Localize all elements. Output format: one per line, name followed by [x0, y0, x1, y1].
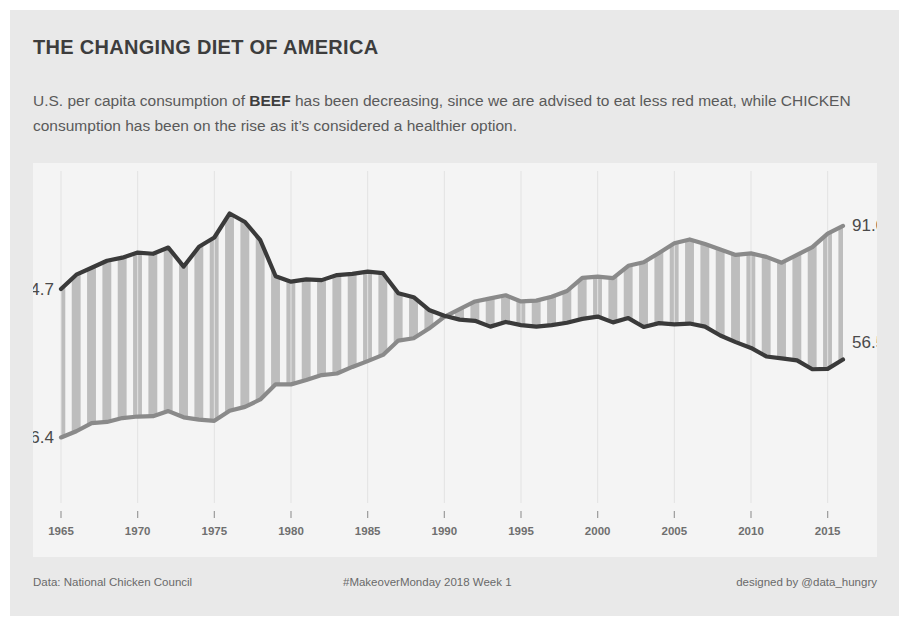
subtitle-part-1: U.S. per capita consumption of [33, 92, 249, 109]
consumption-line-chart: 1965197019751980198519901995200020052010… [33, 163, 877, 557]
x-axis-tick-label: 1985 [355, 525, 381, 537]
x-axis-tick-label: 1970 [125, 525, 151, 537]
x-axis-tick-label: 1995 [508, 525, 534, 537]
x-axis-tick-label: 1965 [48, 525, 74, 537]
x-axis-tick-label: 1990 [432, 525, 458, 537]
chicken-end-label: 91.0 [852, 216, 877, 235]
beef-start-label: 74.7 [33, 280, 54, 299]
subtitle-chicken-emphasis: CHICKEN [781, 92, 851, 109]
beef-end-label: 56.5 [852, 333, 877, 352]
footer-project: #MakeoverMonday 2018 Week 1 [343, 576, 512, 588]
x-axis-tick-label: 2005 [662, 525, 688, 537]
chart-panel: 1965197019751980198519901995200020052010… [33, 163, 877, 557]
subtitle-beef-emphasis: BEEF [249, 92, 290, 109]
subtitle-part-3: consumption has been on the rise as it’s… [33, 117, 517, 134]
chart-background [33, 163, 877, 557]
x-axis-tick-label: 1980 [278, 525, 304, 537]
subtitle-part-2: has been decreasing, since we are advise… [291, 92, 781, 109]
x-axis-tick-label: 2015 [815, 525, 841, 537]
page-title: THE CHANGING DIET OF AMERICA [33, 36, 378, 59]
footer: Data: National Chicken Council #Makeover… [33, 576, 877, 598]
infographic-card: THE CHANGING DIET OF AMERICA U.S. per ca… [10, 10, 899, 616]
chicken-start-label: 36.4 [33, 428, 54, 447]
x-axis-tick-label: 2000 [585, 525, 611, 537]
footer-source: Data: National Chicken Council [33, 576, 192, 588]
footer-credit: designed by @data_hungry [736, 576, 877, 588]
x-axis-tick-label: 1975 [202, 525, 228, 537]
x-axis-tick-label: 2010 [738, 525, 764, 537]
subtitle: U.S. per capita consumption of BEEF has … [33, 88, 865, 138]
